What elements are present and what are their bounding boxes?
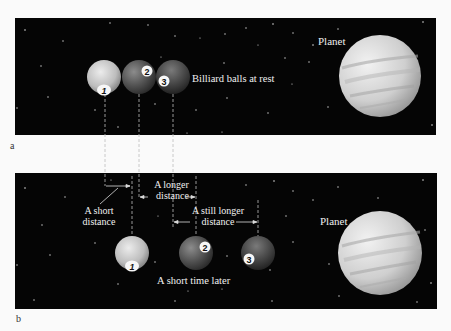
billiard-ball-1-a: 1 — [87, 60, 121, 96]
label-still-longer-distance: A still longer distance — [183, 205, 253, 227]
caption-short-time-later: A short time later — [157, 275, 230, 286]
billiard-ball-2-a: 2 — [122, 60, 156, 94]
short-distance-line1: A short — [74, 205, 124, 216]
caption-billiard-balls-at-rest: Billiard balls at rest — [192, 73, 275, 84]
billiard-ball-3-a: 3 — [156, 60, 190, 94]
short-distance-line2: distance — [74, 216, 124, 227]
svg-text:3: 3 — [161, 77, 166, 87]
label-short-distance: A short distance — [74, 205, 124, 227]
svg-text:2: 2 — [144, 67, 149, 77]
planet-b — [338, 211, 422, 295]
planet-label-a: Planet — [318, 36, 346, 47]
billiard-ball-1-b: 1 — [115, 236, 149, 272]
panel-letter-a: a — [10, 140, 14, 151]
planet-label-b: Planet — [320, 216, 348, 227]
longer-distance-line1: A longer — [144, 179, 199, 190]
svg-text:1: 1 — [101, 86, 106, 96]
panel-letter-b: b — [16, 313, 21, 324]
billiard-ball-2-b: 2 — [179, 236, 213, 270]
label-longer-distance: A longer distance — [144, 179, 199, 201]
planet-a — [339, 35, 421, 117]
svg-text:1: 1 — [129, 262, 134, 272]
still-longer-distance-line1: A still longer — [183, 205, 253, 216]
longer-distance-line2: distance — [144, 190, 199, 201]
still-longer-distance-line2: distance — [183, 216, 253, 227]
svg-text:2: 2 — [202, 243, 207, 253]
svg-text:3: 3 — [246, 255, 251, 265]
billiard-ball-3-b: 3 — [241, 236, 275, 270]
